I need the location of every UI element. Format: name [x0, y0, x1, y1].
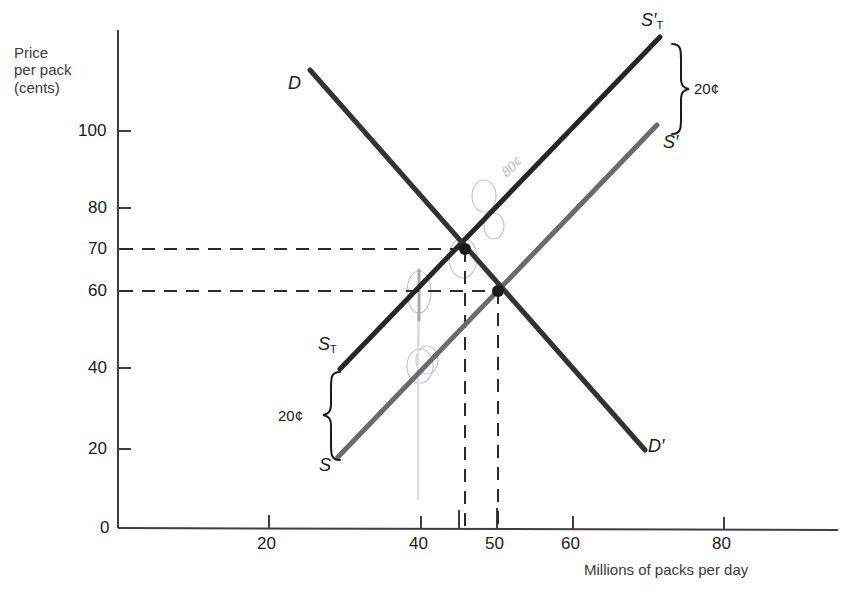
supply-tax-shifted-curve-label: S′T: [641, 10, 663, 31]
x-axis-title: Millions of packs per day: [584, 561, 748, 578]
x-tick-label-80: 80: [712, 534, 731, 554]
x-tick-label-20: 20: [257, 534, 276, 554]
supply-tax-shifted-label-sub: T: [656, 19, 663, 31]
demand-curve: [310, 70, 645, 450]
y-tick-label-100: 100: [78, 121, 106, 141]
supply-curve-label: S: [319, 455, 331, 476]
y-axis-title-line1: Price: [14, 44, 72, 61]
y-tick-label-40: 40: [88, 358, 107, 378]
y-tick-label-60: 60: [88, 281, 107, 301]
y-axis-title-line3: (cents): [14, 79, 72, 96]
chart-canvas: [0, 0, 846, 597]
y-tick-label-20: 20: [88, 439, 107, 459]
brace-bottom-label: 20¢: [278, 407, 303, 424]
brace-top: [672, 44, 689, 134]
y-tick-label-70: 70: [88, 239, 107, 259]
supply-tax-curve: [340, 37, 660, 369]
demand-shifted-curve-label: D′: [648, 436, 664, 457]
supply-tax-curve-label-sub: T: [330, 343, 337, 355]
supply-demand-figure: Price per pack (cents) 100 80 70 60 40 2…: [0, 0, 846, 597]
y-tick-label-0: 0: [100, 518, 109, 538]
y-tick-label-80: 80: [88, 198, 107, 218]
brace-top-label: 20¢: [694, 80, 719, 97]
x-axis: [118, 528, 838, 530]
supply-shifted-curve-label: S′: [663, 132, 678, 153]
x-tick-label-50: 50: [485, 534, 504, 554]
equilibrium-point-no-tax: [492, 285, 504, 297]
supply-tax-curve-label: ST: [318, 334, 337, 355]
demand-curve-label: D: [288, 73, 301, 94]
x-tick-label-60: 60: [561, 534, 580, 554]
x-tick-label-40: 40: [409, 534, 428, 554]
y-axis-title-line2: per pack: [14, 61, 72, 78]
equilibrium-point-with-tax: [459, 243, 471, 255]
pencil-annotations: [407, 180, 504, 500]
supply-tax-curve-label-base: S: [318, 334, 330, 354]
brace-bottom: [323, 372, 340, 460]
guide-lines: [120, 249, 498, 528]
supply-tax-shifted-label-base: S′: [641, 10, 656, 30]
x-tick-marks: [269, 508, 724, 530]
y-axis-title: Price per pack (cents): [14, 44, 72, 96]
